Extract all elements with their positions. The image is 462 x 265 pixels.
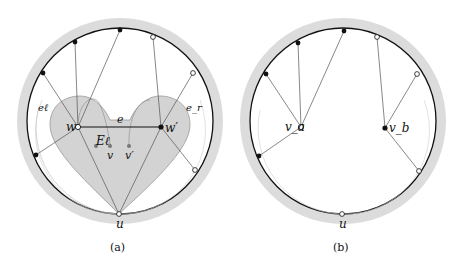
vertex [296,41,301,46]
vertex [375,35,380,40]
label-w-prime: w′ [165,121,178,135]
vertex [73,40,78,45]
vertex [417,169,422,174]
label-v-prime: v′ [125,149,134,162]
vertex-w-prime [158,124,163,129]
vertex [264,72,269,77]
label-vb: v_b [389,121,409,135]
vertex-v-prime [127,144,131,148]
label-er: e_r [186,102,203,114]
vertex [118,28,123,33]
caption-b: (b) [333,241,349,254]
vertex-u [340,212,345,217]
vertex [342,29,347,34]
label-v: v [107,149,114,162]
figure: w w′ e Eℓ v v′ u eℓ e_r (a) [0,0,462,265]
vertex [193,168,198,173]
vertex-u [117,212,122,217]
panel-b: v_a v_b u (b) [240,18,446,254]
vertex [151,35,156,40]
panel-a: w w′ e Eℓ v v′ u eℓ e_r (a) [17,18,223,254]
label-u: u [116,217,124,231]
vertex-vb [382,125,387,130]
label-el: eℓ [38,102,48,113]
label-w: w [66,120,77,134]
label-e: e [117,113,124,126]
label-u: u [339,217,347,231]
label-El: Eℓ [95,134,110,148]
vertex [34,153,39,158]
caption-a: (a) [110,241,125,254]
vertex [415,72,420,77]
vertex [191,71,196,76]
label-va: v_a [285,120,305,134]
vertex [41,71,46,76]
vertex [257,154,262,159]
